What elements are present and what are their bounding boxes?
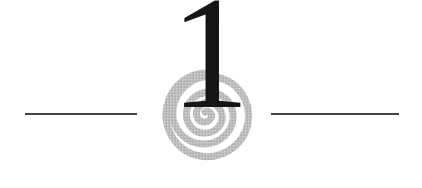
chapter-heading-ornament: 1 <box>0 0 422 188</box>
right-divider-line <box>271 113 399 115</box>
chapter-number: 1 <box>160 0 260 128</box>
left-divider-line <box>25 113 137 115</box>
